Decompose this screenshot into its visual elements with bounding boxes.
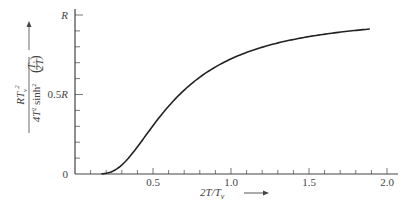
y-tick-label-zero: 0	[63, 168, 69, 180]
x-tick-labels: 0.51.01.52.0	[146, 176, 394, 188]
svg-text:RTv2: RTv2	[13, 85, 29, 106]
x-tick-label: 2.0	[380, 176, 394, 188]
y-tick-label-R: R	[60, 9, 68, 21]
y-axis-arrowhead-icon	[27, 21, 32, 27]
x-tick-label: 1.5	[302, 176, 316, 188]
x-tick-label: 1.0	[224, 176, 238, 188]
y-axis-title: RTv2 4T2 sinh2 Tv 2T ( )	[13, 21, 45, 133]
x-tick-label: 0.5	[146, 176, 160, 188]
axis-ticks	[75, 15, 387, 174]
svg-text:): )	[28, 55, 44, 60]
svg-text:2T/Tv: 2T/Tv	[200, 186, 225, 201]
einstein-function-chart: R 0.5R 0 0.51.01.52.0 2T/Tv RTv2 4T2 sin…	[0, 0, 410, 210]
x-axis-arrowhead-icon	[263, 191, 269, 196]
svg-text:(: (	[28, 68, 44, 73]
data-curve	[102, 29, 370, 174]
x-axis-title: 2T/Tv	[200, 186, 269, 201]
svg-text:4T2 sinh2: 4T2 sinh2	[30, 84, 42, 123]
y-tick-label-half-R: 0.5R	[48, 88, 69, 100]
